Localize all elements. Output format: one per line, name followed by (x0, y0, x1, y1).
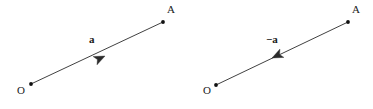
vector-minus-a-tip-label: A (352, 4, 360, 15)
vector-minus-a-origin-dot (214, 83, 218, 87)
vector-minus-a-origin-label: O (203, 85, 211, 96)
vector-minus-a-line (216, 22, 348, 85)
vector-a-origin-dot (29, 82, 33, 86)
vector-minus-a-name-label: −a (266, 34, 278, 45)
vector-a-name-label: a (89, 34, 95, 45)
diagram-vector-a (29, 20, 165, 86)
vector-a-line (31, 22, 163, 84)
vector-figure: O A a O A −a (0, 0, 373, 109)
vector-diagram-canvas (0, 0, 373, 109)
vector-a-tip-label: A (167, 4, 175, 15)
vector-minus-a-arrowhead (270, 49, 284, 62)
diagram-vector-minus-a (214, 20, 350, 87)
vector-a-tip-dot (161, 20, 165, 24)
vector-a-origin-label: O (17, 85, 25, 96)
vector-minus-a-tip-dot (346, 20, 350, 24)
